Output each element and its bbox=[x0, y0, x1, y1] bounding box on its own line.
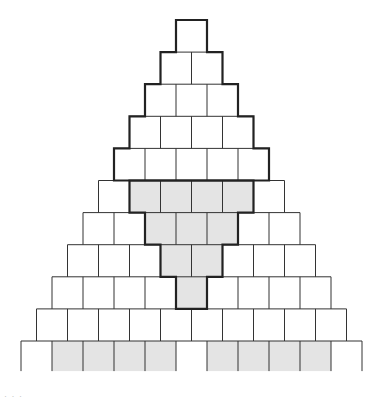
shaded-region-row bbox=[176, 277, 207, 309]
pyramid-diagram bbox=[0, 0, 389, 401]
caption-text: · · · bbox=[4, 392, 264, 401]
top-triangle-outline bbox=[114, 20, 269, 181]
shaded-region-row bbox=[145, 213, 238, 245]
grid-layer bbox=[21, 20, 362, 371]
